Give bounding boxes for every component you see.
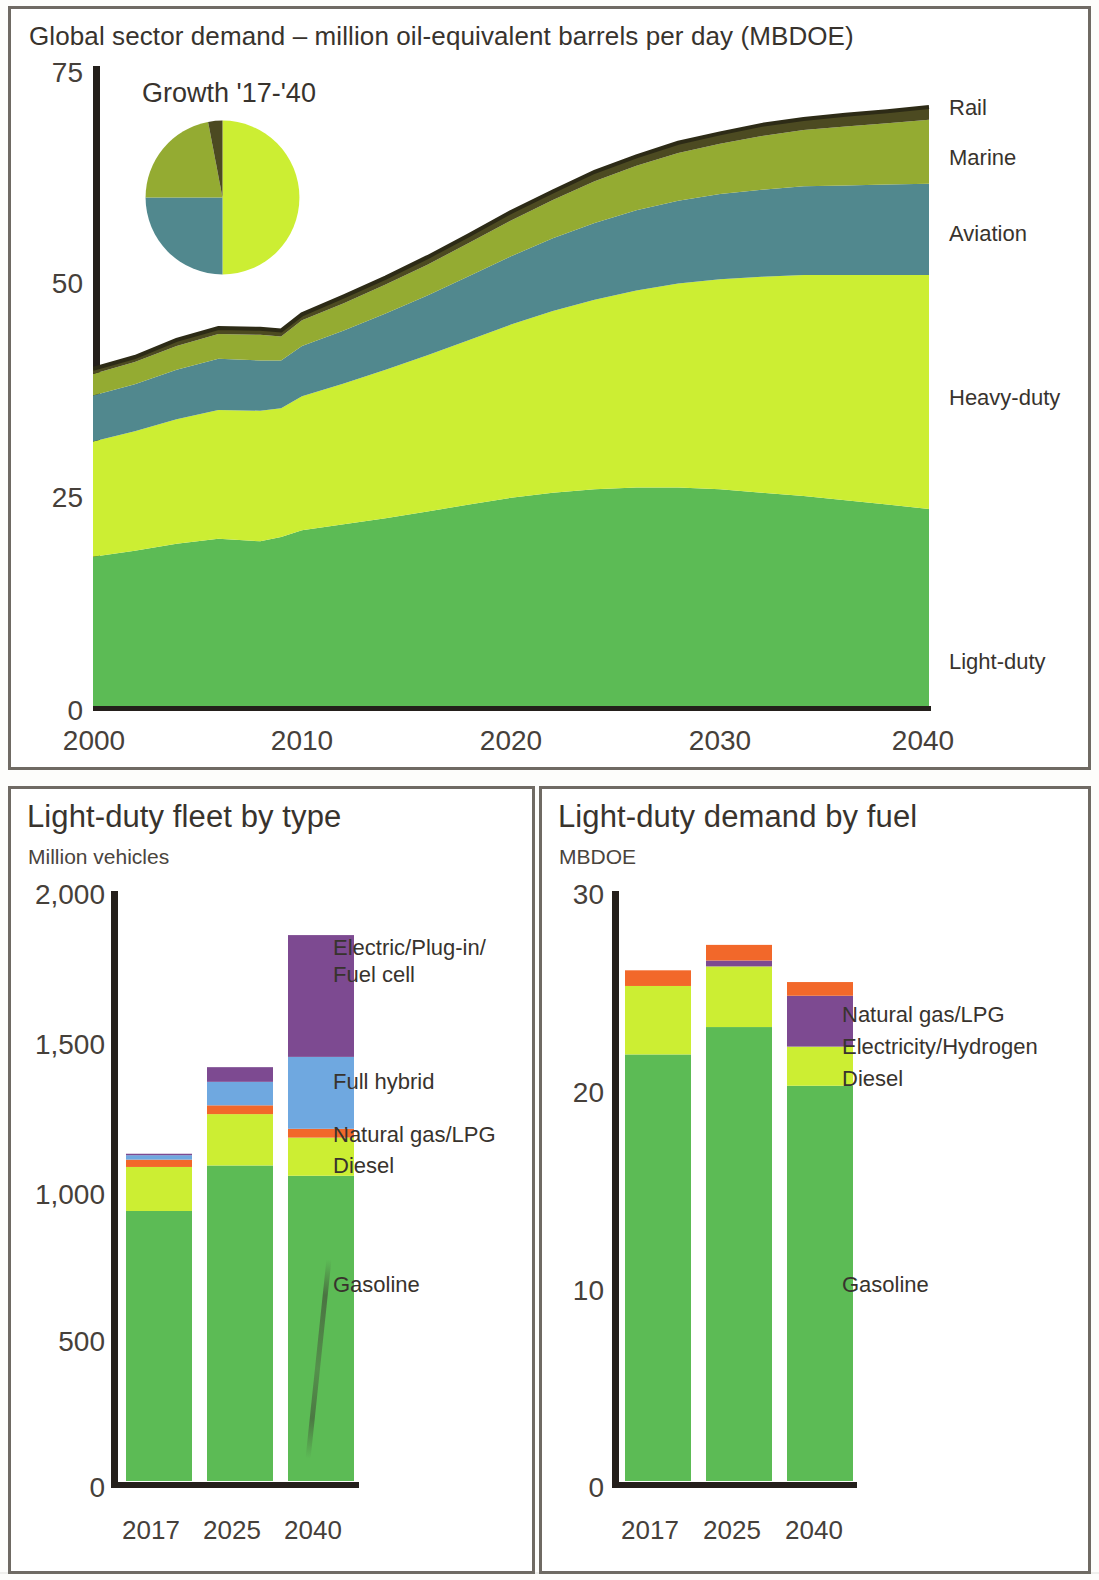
- panel-global-sector-demand: Global sector demand – million oil-equiv…: [8, 6, 1091, 770]
- top-ytick-75: 75: [23, 57, 83, 89]
- br-ytick-10: 10: [548, 1275, 604, 1307]
- bl-xtick-2017: 2017: [111, 1515, 191, 1546]
- bl-label-electric-line1: Electric/Plug-in/: [333, 935, 486, 960]
- br-label-gasoline: Gasoline: [842, 1272, 929, 1299]
- bl-ytick-1500: 1,500: [17, 1029, 105, 1061]
- growth-pie-chart: [144, 119, 301, 276]
- top-ytick-25: 25: [23, 482, 83, 514]
- series-label-heavy-duty: Heavy-duty: [949, 385, 1060, 412]
- series-label-rail: Rail: [949, 95, 987, 122]
- bl-label-full-hybrid: Full hybrid: [333, 1069, 434, 1096]
- top-ytick-0: 0: [23, 695, 83, 727]
- bl-chart-title: Light-duty fleet by type: [27, 799, 341, 835]
- br-label-electricity: Electricity/Hydrogen: [842, 1034, 1038, 1061]
- br-label-diesel: Diesel: [842, 1066, 903, 1093]
- panel-light-duty-demand: Light-duty demand by fuel MBDOE 30 20 10…: [539, 786, 1091, 1574]
- bl-label-electric: Electric/Plug-in/ Fuel cell: [333, 935, 486, 989]
- br-chart-title: Light-duty demand by fuel: [558, 799, 917, 835]
- pie-chart-title: Growth '17-'40: [142, 78, 316, 109]
- br-y-axis: [612, 891, 619, 1486]
- bl-label-diesel: Diesel: [333, 1153, 394, 1180]
- top-xtick-2020: 2020: [451, 725, 571, 757]
- top-chart-title: Global sector demand – million oil-equiv…: [29, 21, 854, 52]
- br-ytick-30: 30: [548, 879, 604, 911]
- top-xtick-2030: 2030: [660, 725, 780, 757]
- bl-label-natural-gas: Natural gas/LPG: [333, 1122, 496, 1149]
- series-label-marine: Marine: [949, 145, 1016, 172]
- series-label-light-duty: Light-duty: [949, 649, 1046, 676]
- br-xtick-2025: 2025: [692, 1515, 772, 1546]
- br-xtick-2040: 2040: [774, 1515, 854, 1546]
- br-bar-plot: [619, 889, 861, 1486]
- bl-y-axis: [111, 891, 118, 1486]
- bl-ytick-2000: 2,000: [17, 879, 105, 911]
- br-chart-subtitle: MBDOE: [559, 845, 636, 869]
- bl-ytick-500: 500: [17, 1326, 105, 1358]
- bl-chart-subtitle: Million vehicles: [28, 845, 169, 869]
- panel-light-duty-fleet: Light-duty fleet by type Million vehicle…: [8, 786, 535, 1574]
- top-xtick-2010: 2010: [242, 725, 362, 757]
- top-ytick-50: 50: [23, 268, 83, 300]
- br-xtick-2017: 2017: [610, 1515, 690, 1546]
- bl-ytick-0: 0: [17, 1472, 105, 1504]
- br-ytick-20: 20: [548, 1077, 604, 1109]
- bl-xtick-2025: 2025: [192, 1515, 272, 1546]
- top-xtick-2040: 2040: [863, 725, 983, 757]
- bl-xtick-2040: 2040: [273, 1515, 353, 1546]
- series-label-aviation: Aviation: [949, 221, 1027, 248]
- scan-line: [0, 1572, 1099, 1574]
- top-xtick-2000: 2000: [34, 725, 154, 757]
- br-ytick-0: 0: [548, 1472, 604, 1504]
- bl-bar-plot: [118, 889, 363, 1486]
- bl-ytick-1000: 1,000: [17, 1179, 105, 1211]
- br-label-natural-gas: Natural gas/LPG: [842, 1002, 1005, 1029]
- figure-page: Global sector demand – million oil-equiv…: [0, 0, 1099, 1580]
- bl-label-electric-line2: Fuel cell: [333, 962, 415, 987]
- bl-label-gasoline: Gasoline: [333, 1272, 420, 1299]
